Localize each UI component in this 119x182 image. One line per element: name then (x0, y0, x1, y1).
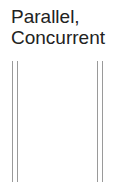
diagram-label: Parallel, Concurrent (11, 6, 105, 48)
right-lifeline-outer (102, 61, 103, 182)
right-lifeline-inner (97, 61, 98, 182)
label-line-2: Concurrent (11, 27, 105, 48)
label-line-1: Parallel, (11, 6, 105, 27)
left-lifeline-outer (12, 61, 13, 182)
left-lifeline-inner (17, 61, 18, 182)
